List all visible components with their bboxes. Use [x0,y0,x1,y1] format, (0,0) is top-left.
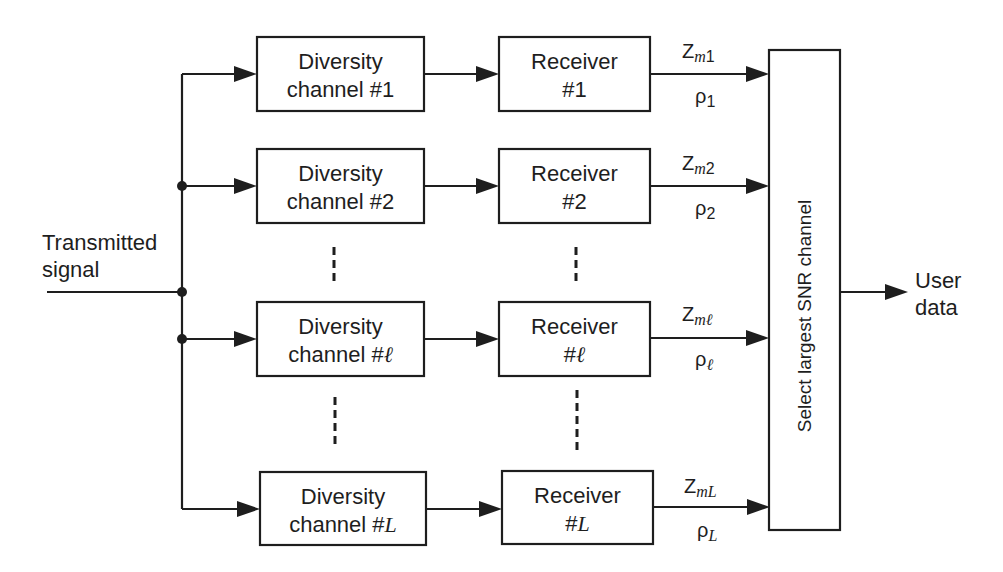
input-label-line2: signal [42,257,99,282]
arrowhead-icon [747,499,770,515]
junction-dot [177,287,187,297]
channel-label-line2: channel #L [289,512,397,537]
input-label-line1: Transmitted [42,230,157,255]
arrowhead-icon [476,178,499,194]
arrowhead-icon [885,284,908,300]
snr-label: ρℓ [695,348,713,373]
arrowhead-icon [746,330,769,346]
channel-label-line1: Diversity [298,161,382,186]
branch-1: Diversity channel #1 Receiver #1 Zm1 ρ1 [182,37,769,111]
receiver-label-line2: #1 [562,77,587,102]
channel-label-line2: channel #2 [287,189,395,214]
decision-statistic-label: ZmL [684,475,717,500]
arrowhead-icon [234,331,257,347]
channel-label-line2: channel #1 [287,77,395,102]
output-label-line1: User [915,268,961,293]
arrowhead-icon [237,501,260,517]
branch-2: Diversity channel #2 Receiver #2 Zm2 ρ2 [182,149,769,223]
arrowhead-icon [234,178,257,194]
receiver-label-line1: Receiver [534,483,621,508]
arrowhead-icon [746,66,769,82]
arrowhead-icon [476,66,499,82]
receiver-label-line1: Receiver [531,314,618,339]
decision-statistic-label: Zmℓ [682,303,713,328]
channel-label-line1: Diversity [298,314,382,339]
receiver-label-line2: #ℓ [564,342,586,367]
snr-label: ρ2 [695,197,715,222]
selection-combiner-label: Select largest SNR channel [794,200,815,432]
receiver-label-line1: Receiver [531,49,618,74]
receiver-label-line2: #2 [562,189,587,214]
branch-l: Diversity channel #ℓ Receiver #ℓ Zmℓ ρℓ [182,302,769,376]
branch-L: Diversity channel #L Receiver #L ZmL ρL [182,471,770,545]
decision-statistic-label: Zm2 [682,152,715,177]
channel-label-line1: Diversity [301,484,385,509]
arrowhead-icon [746,178,769,194]
receiver-label-line2: #L [565,511,590,536]
arrowhead-icon [234,66,257,82]
output-label-line2: data [915,295,959,320]
channel-label-line1: Diversity [298,49,382,74]
decision-statistic-label: Zm1 [682,40,715,65]
arrowhead-icon [479,501,502,517]
snr-label: ρL [697,519,717,544]
receiver-label-line1: Receiver [531,161,618,186]
diversity-diagram: Transmitted signal Diversity channel #1 … [0,0,1003,572]
channel-label-line2: channel #ℓ [288,342,393,367]
snr-label: ρ1 [695,85,715,110]
arrowhead-icon [476,331,499,347]
